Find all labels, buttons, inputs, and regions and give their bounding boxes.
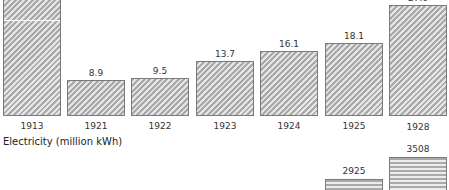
value-label-1921: 8.9 (67, 68, 125, 78)
value-label-1924: 16.1 (260, 39, 318, 49)
bar-1925 (325, 43, 383, 116)
electricity-value-label-1925: 2925 (325, 166, 383, 176)
bar-1923 (196, 61, 254, 116)
value-label-1923: 13.7 (196, 49, 254, 59)
bar-1921 (67, 80, 125, 116)
category-label-1928: 1928 (389, 122, 447, 132)
bar-1913 (3, 0, 61, 116)
electricity-value-label-1928: 3508 (389, 144, 447, 154)
electricity-section-title: Electricity (million kWh) (3, 136, 122, 147)
bar-1913-break-line (4, 20, 60, 21)
category-label-1925: 1925 (325, 121, 383, 131)
bar-1928 (389, 5, 447, 116)
bar-1924 (260, 51, 318, 116)
electricity-bar-1928 (389, 157, 447, 190)
value-label-1922: 9.5 (131, 66, 189, 76)
category-label-1921: 1921 (67, 121, 125, 131)
category-label-1913: 1913 (3, 121, 61, 131)
bar-1922 (131, 78, 189, 116)
category-label-1924: 1924 (260, 121, 318, 131)
electricity-bar-1925 (325, 179, 383, 190)
category-label-1922: 1922 (131, 121, 189, 131)
category-label-1923: 1923 (196, 121, 254, 131)
value-label-1928: 27.6 (389, 0, 447, 3)
value-label-1925: 18.1 (325, 31, 383, 41)
